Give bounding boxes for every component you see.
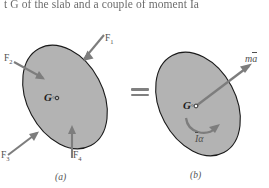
force-arrow-f3 bbox=[8, 132, 39, 156]
force-label-f3: F3 bbox=[1, 150, 10, 162]
figure-a-group bbox=[6, 31, 125, 164]
equals-sign bbox=[131, 88, 149, 100]
mass-center-dot-b bbox=[194, 104, 198, 108]
force-arrow-f1 bbox=[83, 35, 104, 61]
force-label-f1: F1 bbox=[105, 33, 114, 45]
force-label-f2: F2 bbox=[4, 53, 13, 65]
force-label-f4: F4 bbox=[73, 150, 82, 162]
caption-figure-a: (a) bbox=[55, 172, 66, 182]
mass-center-label-b: G◦ bbox=[183, 99, 194, 111]
equals-bar-top bbox=[131, 88, 149, 91]
caption-figure-b: (b) bbox=[190, 170, 201, 180]
effective-force-label-ma: ma bbox=[245, 53, 257, 64]
effective-couple-label-ialpha: Iα bbox=[195, 133, 204, 144]
mass-center-label-a: G◦ bbox=[44, 91, 55, 103]
equals-bar-bottom bbox=[131, 94, 149, 97]
figure-b-group bbox=[139, 38, 258, 171]
